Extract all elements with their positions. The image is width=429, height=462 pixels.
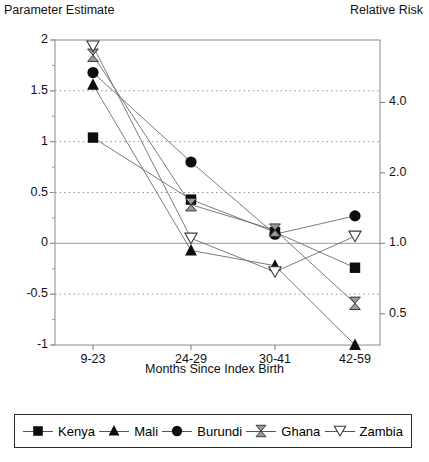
legend-marker-filled-triangle: [99, 424, 129, 438]
marker-open-inverted-triangle: [269, 267, 281, 278]
marker-filled-circle: [349, 210, 360, 221]
legend-label: Mali: [134, 424, 158, 439]
marker-bowtie: [350, 297, 361, 309]
legend-label: Burundi: [197, 424, 242, 439]
legend-label: Kenya: [58, 424, 95, 439]
marker-open-inverted-triangle: [349, 231, 361, 242]
y-axis-tick-0: 0: [2, 235, 48, 249]
marker-open-inverted-triangle: [334, 426, 345, 436]
series-line-kenya: [93, 138, 355, 268]
chart-plot-area: 21.510.50-0.5-14.02.01.00.59-2324-2930-4…: [0, 0, 429, 392]
marker-filled-circle: [172, 426, 182, 436]
legend-item-kenya[interactable]: Kenya: [21, 424, 97, 439]
marker-filled-square: [88, 132, 98, 142]
marker-filled-triangle: [87, 78, 99, 89]
series-line-ghana: [93, 55, 355, 303]
y-axis-tick-1.5: 1.5: [2, 83, 48, 97]
legend-marker-filled-circle: [162, 424, 192, 438]
marker-bowtie: [256, 425, 266, 436]
y-axis-tick-0.5: 0.5: [2, 185, 48, 199]
chart-legend: KenyaMaliBurundiGhanaZambia: [14, 414, 412, 448]
marker-filled-square: [350, 263, 360, 273]
x-axis-label: Months Since Index Birth: [0, 362, 429, 376]
legend-marker-open-inverted-triangle: [325, 424, 355, 438]
marker-filled-circle: [87, 67, 98, 78]
marker-filled-square: [33, 426, 43, 436]
marker-filled-circle: [185, 156, 196, 167]
legend-label: Ghana: [281, 424, 320, 439]
y-axis-tick-2: 2: [2, 32, 48, 46]
y-axis-right-tick-1.0: 1.0: [389, 235, 429, 249]
y-axis-right-tick-2.0: 2.0: [389, 165, 429, 179]
marker-open-inverted-triangle: [185, 233, 197, 244]
marker-filled-triangle: [185, 244, 197, 255]
legend-item-ghana[interactable]: Ghana: [244, 424, 322, 439]
legend-item-mali[interactable]: Mali: [97, 424, 160, 439]
y-axis-right-tick-0.5: 0.5: [389, 306, 429, 320]
legend-marker-filled-square: [23, 424, 53, 438]
y-axis-tick-1: 1: [2, 134, 48, 148]
y-axis-right-tick-4.0: 4.0: [389, 94, 429, 108]
legend-item-burundi[interactable]: Burundi: [160, 424, 244, 439]
y-axis-tick--1: -1: [2, 337, 48, 351]
legend-label: Zambia: [360, 424, 403, 439]
series-line-zambia: [93, 46, 355, 272]
marker-filled-triangle: [109, 425, 120, 435]
legend-marker-bowtie: [246, 424, 276, 438]
series-line-burundi: [93, 73, 355, 235]
legend-item-zambia[interactable]: Zambia: [322, 424, 405, 439]
chart-svg: [0, 0, 429, 392]
y-axis-tick--0.5: -0.5: [2, 286, 48, 300]
